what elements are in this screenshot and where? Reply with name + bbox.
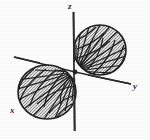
orbital-diagram-svg [0,0,150,140]
y-axis-label: y [133,82,137,91]
lobe-upper-right [74,25,126,75]
orbital-figure: z y x [0,0,150,140]
origin-point [73,70,78,75]
z-axis-label: z [68,2,72,11]
lobe-lower-left [18,65,76,119]
x-axis-label: x [10,106,15,115]
z-axis-lower-segment [74,78,75,131]
x-axis-outer-segment [14,57,40,63]
z-axis-upper-segment [74,12,75,62]
y-axis-outer-segment [88,75,131,84]
